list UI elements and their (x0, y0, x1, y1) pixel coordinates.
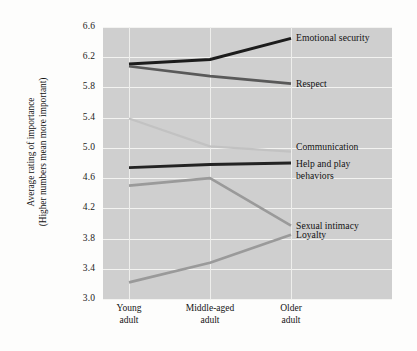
series-line-emotional-security (129, 38, 291, 64)
figure-container: 3.03.43.84.24.65.05.45.86.26.6 Average r… (0, 0, 417, 351)
x-axis-tick-label-line: Older (280, 303, 302, 315)
x-axis-tick-layer: YoungadultMiddle-agedadultOlderadult (0, 303, 417, 343)
x-axis-tick-label-line: adult (117, 315, 142, 327)
x-axis-tick-label-line: adult (186, 315, 235, 327)
series-label-line: behaviors (296, 170, 350, 182)
series-label-respect: Respect (296, 78, 327, 90)
series-label-emotional-security: Emotional security (296, 32, 370, 44)
series-line-loyalty (129, 235, 291, 283)
series-line-sexual-intimacy (129, 178, 291, 226)
series-label-line: Loyalty (296, 229, 326, 241)
series-label-communication: Communication (296, 141, 358, 153)
x-axis-tick-label: Middle-agedadult (186, 303, 235, 326)
x-axis-tick-label: Olderadult (280, 303, 302, 326)
series-line-respect (129, 66, 291, 83)
series-label-loyalty: Loyalty (296, 229, 326, 241)
series-line-communication (129, 118, 291, 151)
series-label-help-and-play-behaviors: Help and playbehaviors (296, 158, 350, 181)
series-label-line: Communication (296, 141, 358, 153)
series-label-line: Help and play (296, 158, 350, 170)
x-axis-tick-label-line: Middle-aged (186, 303, 235, 315)
x-axis-tick-label-line: Young (117, 303, 142, 315)
x-axis-tick-label-line: adult (280, 315, 302, 327)
series-lines (0, 0, 417, 351)
series-label-line: Respect (296, 78, 327, 90)
series-label-line: Emotional security (296, 32, 370, 44)
x-axis-tick-label: Youngadult (117, 303, 142, 326)
series-line-help-and-play-behaviors (129, 163, 291, 168)
